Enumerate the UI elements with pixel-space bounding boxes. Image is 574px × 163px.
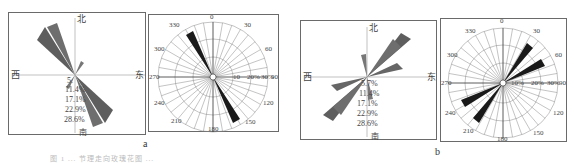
angle-180: 180	[497, 135, 508, 143]
radial-tick-2: 17.1%	[357, 99, 378, 108]
radial-tick-4: 28.6%	[357, 119, 378, 128]
panel-label-b: b	[435, 146, 440, 157]
panel-label-a: a	[143, 138, 147, 149]
east-label: 东	[135, 68, 144, 81]
rose-diagram-a-right: 0 30 60 90 120 150 180 210 240 270 300 3…	[148, 14, 279, 132]
angle-150: 150	[533, 129, 544, 137]
angle-90: 90	[559, 79, 566, 87]
angle-120: 120	[263, 99, 274, 107]
north-label: 北	[77, 12, 86, 25]
radial-tick-1: 11.4%	[359, 89, 379, 98]
radial-20: 20%	[247, 73, 260, 81]
angle-240: 240	[445, 109, 456, 117]
south-label: 南	[79, 126, 87, 137]
radial-10: 10	[233, 73, 240, 81]
angle-150: 150	[245, 118, 256, 126]
radial-tick-4: 28.6%	[64, 115, 85, 124]
radial-tick-2: 17.1%	[65, 95, 86, 104]
radial-20: 20%	[531, 79, 544, 87]
radial-10: 10%	[511, 79, 524, 87]
rose-diagram-b-left: 北 西 东 南 5.7% 11.4% 17.1% 22.9% 28.6%	[300, 20, 437, 140]
radial-tick-3: 22.9%	[65, 105, 86, 114]
angle-120: 120	[553, 109, 564, 117]
angle-180: 180	[208, 125, 219, 133]
angle-300: 300	[447, 51, 458, 59]
angle-330: 330	[465, 27, 476, 35]
angle-210: 210	[463, 127, 474, 135]
angle-0: 0	[210, 13, 214, 21]
radial-tick-0: 5.	[67, 76, 73, 85]
angle-60: 60	[265, 45, 272, 53]
figure-caption: 图 1 ... 节理走向玫瑰花图 ...	[50, 153, 154, 163]
angle-210: 210	[171, 117, 182, 125]
angle-60: 60	[555, 51, 562, 59]
radial-30: 30%	[547, 79, 560, 87]
angle-240: 240	[154, 99, 165, 107]
angle-330: 330	[169, 21, 180, 29]
radial-tick-3: 22.9%	[357, 109, 378, 118]
angle-30: 30	[533, 27, 540, 35]
west-label: 西	[11, 68, 20, 81]
west-label: 西	[303, 70, 312, 83]
rose-diagram-b-right: 0 30 60 90 120 150 180 210 240 270 300 3…	[440, 18, 567, 142]
angle-0: 0	[500, 17, 504, 25]
radial-tick-0: 5.7%	[361, 79, 378, 88]
radial-30: 30%	[261, 73, 274, 81]
south-label: 南	[371, 130, 379, 141]
radial-tick-1: 11.4%	[65, 85, 85, 94]
angle-30: 30	[244, 21, 251, 29]
angle-270: 270	[149, 73, 160, 81]
rose-diagram-a-left: 北 西 东 南 5. 11.4% 17.1% 22.9% 28.6%	[8, 12, 146, 135]
angle-270: 270	[441, 79, 452, 87]
east-label: 东	[427, 70, 436, 83]
angle-300: 300	[154, 45, 165, 53]
north-label: 北	[369, 21, 378, 34]
